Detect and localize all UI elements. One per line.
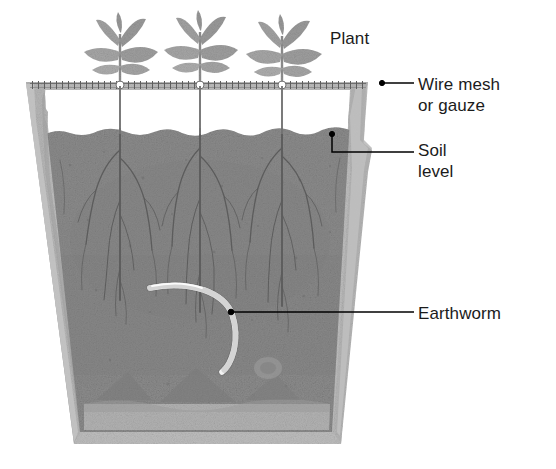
- diagram-canvas: Plant Wire mesh or gauze Soil level Eart…: [0, 0, 556, 469]
- label-earthworm: Earthworm: [418, 303, 501, 324]
- leader-wire-mesh: [379, 80, 414, 85]
- label-plant: Plant: [330, 28, 369, 49]
- plant-1: [84, 12, 158, 82]
- plants: [84, 10, 322, 82]
- pot-cross-section-illustration: [0, 0, 556, 469]
- plant-2: [164, 10, 238, 82]
- label-wire-mesh: Wire mesh or gauze: [418, 74, 500, 116]
- label-soil-level: Soil level: [418, 140, 453, 182]
- plant-3: [246, 14, 322, 82]
